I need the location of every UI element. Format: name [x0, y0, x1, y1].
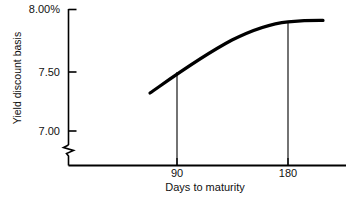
x-axis-title: Days to maturity	[140, 181, 270, 193]
x-tick-label-180: 180	[268, 167, 308, 179]
chart-figure: 8.00% 7.50 7.00 90 180 Yield discount ba…	[0, 0, 346, 197]
y-axis-title: Yield discount basis	[11, 13, 23, 143]
y-axis-break-icon	[64, 145, 74, 166]
yield-curve-line	[150, 20, 323, 93]
x-tick-label-90: 90	[157, 167, 197, 179]
